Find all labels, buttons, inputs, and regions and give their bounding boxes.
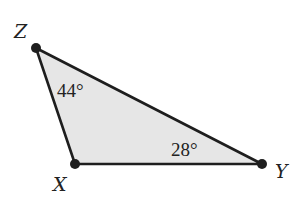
vertex-y-point xyxy=(257,159,267,169)
vertex-x-point xyxy=(70,159,80,169)
vertex-y-label: Y xyxy=(275,160,290,182)
vertex-z-label: Z xyxy=(13,20,28,42)
vertex-z-point xyxy=(31,43,41,53)
angle-y-label: 28° xyxy=(171,139,198,160)
triangle-diagram: Z X Y 44° 28° xyxy=(0,0,298,199)
vertex-x-label: X xyxy=(51,173,68,195)
triangle-xyz xyxy=(36,48,262,164)
angle-z-label: 44° xyxy=(57,80,84,101)
